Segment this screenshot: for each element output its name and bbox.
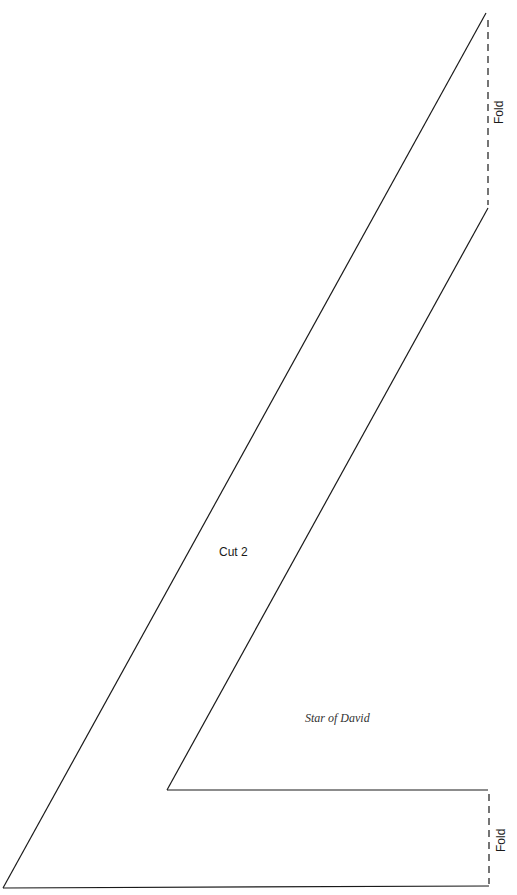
cut-instruction-label: Cut 2 (219, 545, 248, 559)
top-fold-label: Fold (492, 101, 506, 124)
pattern-title-label: Star of David (305, 711, 370, 726)
bottom-cut-line (3, 886, 489, 888)
pattern-outline (0, 0, 517, 895)
inner-diagonal-cut-line (167, 208, 488, 790)
outer-diagonal-cut-line (3, 13, 486, 888)
pattern-sheet: Cut 2 Star of David Fold Fold (0, 0, 517, 895)
bottom-fold-label: Fold (494, 829, 508, 852)
